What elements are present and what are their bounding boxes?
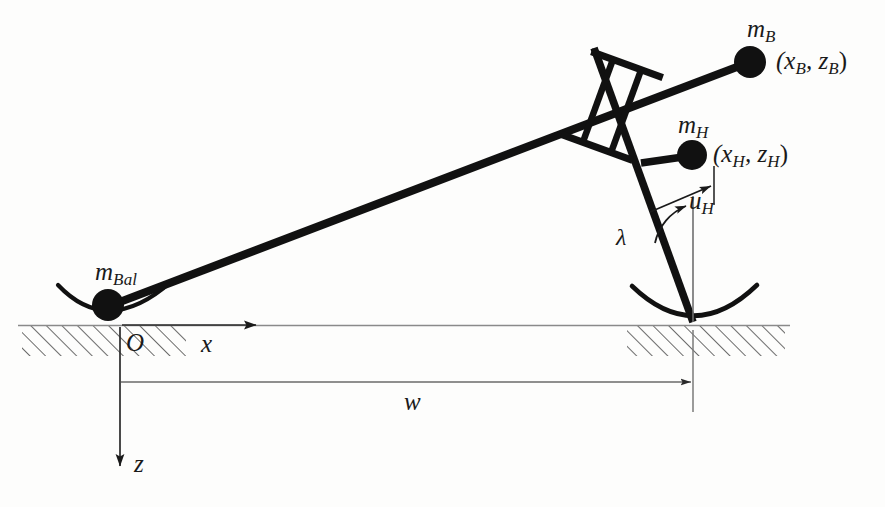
diagram-canvas [0, 0, 885, 507]
input-hand-label: uH [689, 188, 714, 217]
mass-balance-marker [92, 289, 124, 321]
origin-label: O [126, 330, 144, 355]
z-axis-label: z [134, 451, 144, 476]
main-beam [104, 62, 750, 308]
mechanism-figure: mB (xB, zB) mH (xH, zH) mBal uH λ O x z … [0, 0, 885, 507]
mass-hand-coords-label: (xH, zH) [713, 141, 788, 170]
mass-balance-label: mBal [95, 259, 137, 288]
right-rocker [632, 285, 757, 316]
ground-hatching-right [627, 326, 785, 356]
mass-hand-marker [677, 140, 707, 170]
mass-beam-label: mB [747, 16, 776, 45]
mass-beam-marker [734, 46, 766, 78]
mass-beam-coords-label: (xB, zB) [776, 48, 847, 77]
ground-hatching-left [22, 326, 186, 356]
x-axis-label: x [201, 331, 212, 356]
mass-hand-label: mH [678, 112, 709, 141]
width-dimension-label: w [404, 389, 421, 414]
lambda-angle-label: λ [616, 225, 626, 249]
